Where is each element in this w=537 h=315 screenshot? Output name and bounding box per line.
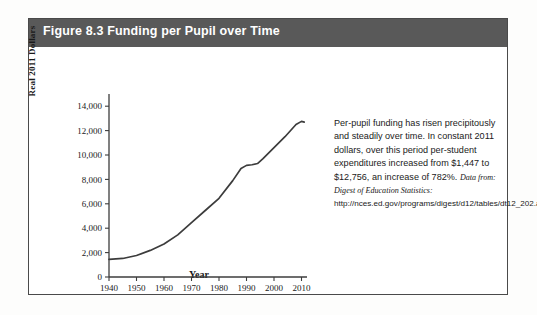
svg-text:1970: 1970 [183,283,202,293]
svg-text:1960: 1960 [155,283,174,293]
svg-text:1980: 1980 [210,283,229,293]
svg-text:4,000: 4,000 [82,223,103,233]
svg-text:10,000: 10,000 [77,150,102,160]
svg-text:6,000: 6,000 [82,199,103,209]
svg-text:2000: 2000 [265,283,284,293]
figure-container: Figure 8.3 Funding per Pupil over Time R… [28,18,508,295]
svg-text:1940: 1940 [100,283,119,293]
svg-text:8,000: 8,000 [82,175,103,185]
data-series-line [109,121,304,259]
figure-caption: Per-pupil funding has risen precipitousl… [334,117,496,211]
svg-text:0: 0 [98,272,103,282]
svg-text:2,000: 2,000 [82,248,103,258]
caption-source-url[interactable]: http://nces.ed.gov/programs/digest/d12/t… [334,199,537,208]
x-axis-ticks: 19401950196019701980199020002010 [100,277,311,293]
svg-text:1990: 1990 [238,283,257,293]
y-axis-ticks: 02,0004,0006,0008,00010,00012,00014,000 [77,101,109,282]
svg-text:12,000: 12,000 [77,126,102,136]
figure-title: Figure 8.3 Funding per Pupil over Time [43,24,280,38]
svg-text:1950: 1950 [128,283,147,293]
svg-text:14,000: 14,000 [77,101,102,111]
svg-text:2010: 2010 [293,283,312,293]
